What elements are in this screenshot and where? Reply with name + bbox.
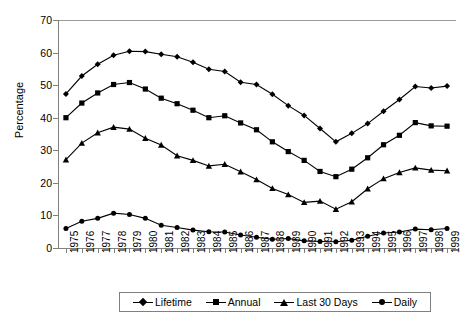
- data-point: [444, 124, 449, 129]
- chart-legend: LifetimeAnnualLast 30 DaysDaily: [119, 292, 431, 312]
- data-point: [365, 121, 371, 127]
- x-axis-tick-mark: [272, 248, 273, 253]
- data-point: [174, 54, 180, 60]
- data-point: [349, 130, 355, 136]
- data-point: [365, 155, 370, 160]
- x-axis-tick-mark: [431, 248, 432, 253]
- x-axis-tick-label: 1977: [102, 231, 112, 253]
- x-axis-tick-label: 1993: [356, 231, 366, 253]
- y-axis-title: Percentage: [13, 65, 25, 155]
- y-axis-tick-mark: [53, 20, 58, 21]
- data-point: [333, 239, 338, 244]
- x-axis-tick-mark: [257, 248, 258, 253]
- data-point: [79, 219, 84, 224]
- y-axis-tick-label: 70: [18, 15, 52, 25]
- x-axis-tick-mark: [129, 248, 130, 253]
- legend-item-label: Last 30 Days: [296, 296, 357, 308]
- data-point: [126, 126, 132, 132]
- x-axis-tick-label: 1975: [70, 231, 80, 253]
- x-axis-tick-mark: [399, 248, 400, 253]
- data-point: [269, 185, 275, 191]
- x-axis-tick-mark: [82, 248, 83, 253]
- data-point: [95, 90, 100, 95]
- x-axis-tick-label: 1986: [245, 231, 255, 253]
- data-point: [412, 83, 418, 89]
- data-point: [143, 86, 148, 91]
- data-point: [349, 238, 354, 243]
- legend-item-label: Daily: [394, 296, 417, 308]
- data-point: [142, 49, 148, 55]
- data-point: [429, 123, 434, 128]
- x-axis-tick-label: 1978: [118, 231, 128, 253]
- x-axis-tick-mark: [320, 248, 321, 253]
- x-axis-tick-mark: [66, 248, 67, 253]
- series-line: [66, 83, 447, 177]
- data-point: [237, 169, 243, 175]
- data-point: [333, 139, 339, 145]
- legend-item-last-30-days: Last 30 Days: [274, 296, 357, 308]
- y-axis-tick-mark: [53, 118, 58, 119]
- x-axis-tick-mark: [304, 248, 305, 253]
- data-point: [381, 108, 387, 114]
- x-axis-tick-mark: [161, 248, 162, 253]
- square-marker-icon: [206, 297, 226, 307]
- series-annual: [63, 80, 449, 179]
- data-point: [286, 236, 291, 241]
- x-axis-tick-mark: [114, 248, 115, 253]
- data-point: [269, 91, 275, 97]
- x-axis-tick-label: 1982: [181, 231, 191, 253]
- x-axis-tick-label: 1995: [388, 231, 398, 253]
- data-point: [333, 206, 339, 212]
- data-point: [127, 212, 132, 217]
- data-point: [286, 149, 291, 154]
- x-axis-tick-label: 1983: [197, 231, 207, 253]
- data-point: [126, 48, 132, 54]
- data-point: [285, 191, 291, 197]
- data-point: [301, 112, 307, 118]
- y-axis-tick-label: 10: [18, 210, 52, 220]
- x-axis-tick-mark: [193, 248, 194, 253]
- data-point: [63, 157, 69, 163]
- circle-marker-icon: [372, 297, 392, 307]
- data-point: [285, 103, 291, 109]
- y-axis-tick-mark: [53, 248, 58, 249]
- x-axis-tick-mark: [447, 248, 448, 253]
- series-last-30-days: [63, 124, 451, 212]
- y-axis-tick-label: 20: [18, 178, 52, 188]
- data-point: [397, 133, 402, 138]
- data-point: [317, 125, 323, 131]
- data-point: [174, 153, 180, 159]
- x-axis-tick-mark: [145, 248, 146, 253]
- y-axis-tick-labels: 010203040506070: [14, 0, 52, 320]
- data-point: [190, 108, 195, 113]
- y-axis-tick-mark: [53, 150, 58, 151]
- data-point: [444, 168, 450, 174]
- x-axis-tick-mark: [288, 248, 289, 253]
- data-point: [302, 238, 307, 243]
- data-point: [318, 239, 323, 244]
- data-point: [206, 115, 211, 120]
- data-point: [429, 227, 434, 232]
- data-point: [190, 157, 196, 163]
- y-axis-line: [58, 20, 59, 249]
- data-point: [63, 226, 68, 231]
- x-axis-tick-label: 1979: [133, 231, 143, 253]
- x-axis-tick-mark: [177, 248, 178, 253]
- x-axis-tick-mark: [209, 248, 210, 253]
- data-point: [63, 115, 68, 120]
- data-point: [206, 66, 212, 72]
- x-axis-tick-mark: [415, 248, 416, 253]
- data-point: [158, 142, 164, 148]
- data-point: [254, 81, 260, 87]
- x-axis-tick-label: 1989: [292, 231, 302, 253]
- data-point: [396, 169, 402, 175]
- data-point: [206, 229, 211, 234]
- data-point: [238, 79, 244, 85]
- x-axis-tick-mark: [384, 248, 385, 253]
- data-point: [317, 198, 323, 204]
- x-axis-tick-label: 1998: [435, 231, 445, 253]
- data-point: [127, 80, 132, 85]
- data-point: [445, 226, 450, 231]
- data-point: [428, 167, 434, 173]
- x-axis-tick-label: 1976: [86, 231, 96, 253]
